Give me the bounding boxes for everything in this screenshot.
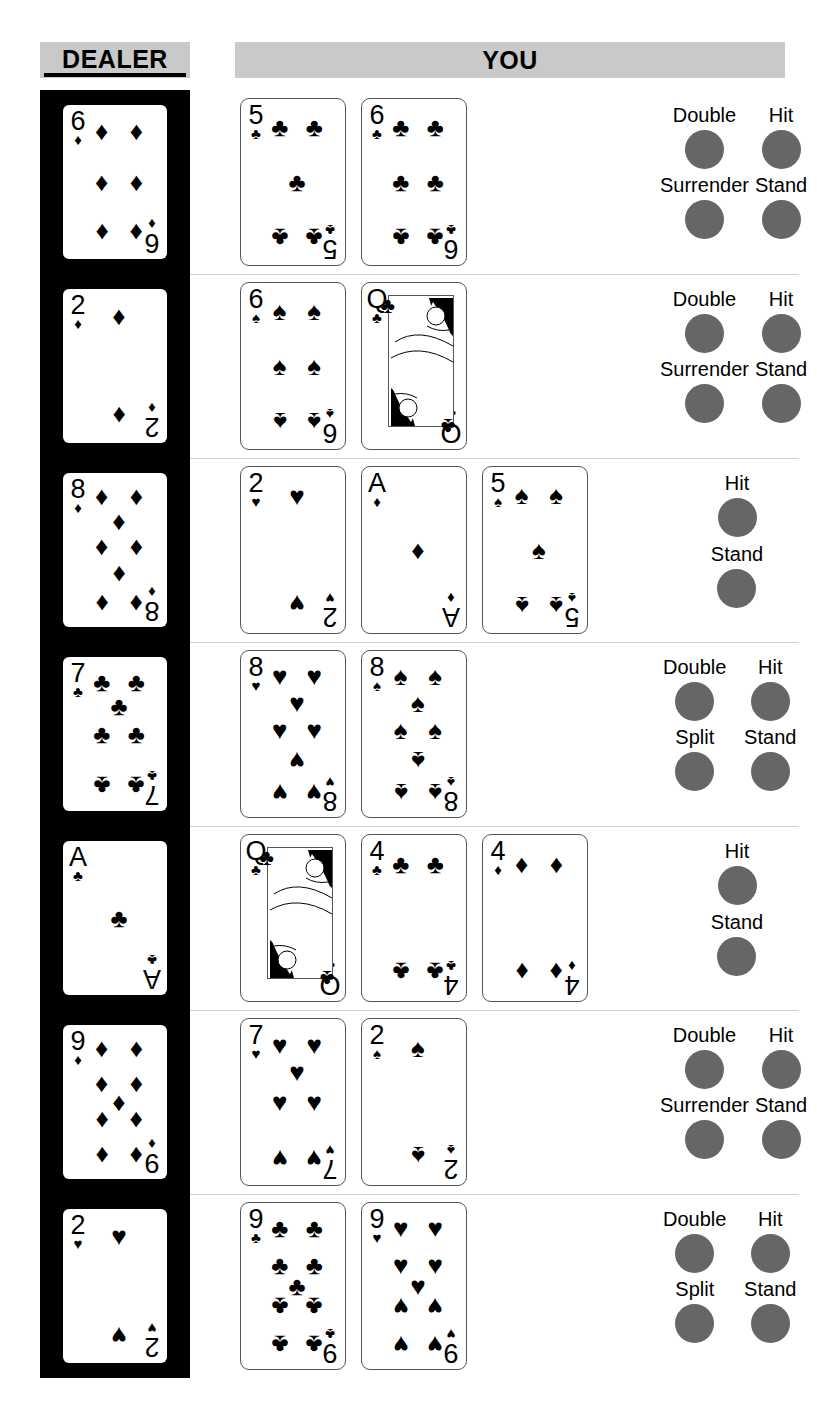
quiz-row: A♣A♣♣Q♣Q♣♣♣4♣4♣♣♣♣♣4♦4♦♦♦♦♦HitStand xyxy=(0,826,817,1010)
action-button-dot[interactable] xyxy=(751,682,790,721)
action-button-hit[interactable]: Hit xyxy=(736,1208,806,1273)
action-button-stand[interactable]: Stand xyxy=(736,1278,806,1343)
card-suit-diamond-icon: ♦ xyxy=(130,1035,143,1061)
card-suit-diamond-icon: ♦ xyxy=(130,483,143,509)
card-pips: ♣♣♣♣♣♣♣♣♣ xyxy=(261,1211,333,1361)
dealer-card: A♣A♣♣ xyxy=(63,841,167,995)
action-button-hit[interactable]: Hit xyxy=(736,656,806,721)
action-button-surrender[interactable]: Surrender xyxy=(660,174,749,239)
action-button-hit[interactable]: Hit xyxy=(755,104,807,169)
action-button-surrender[interactable]: Surrender xyxy=(660,358,749,423)
player-card: 9♣9♣♣♣♣♣♣♣♣♣♣ xyxy=(240,1202,346,1370)
action-button-group: DoubleHitSplitStand xyxy=(660,1208,805,1348)
card-suit-club-icon: ♣ xyxy=(306,1332,323,1358)
action-button-stand[interactable]: Stand xyxy=(755,174,807,239)
card-suit-heart-icon: ♥ xyxy=(393,1252,408,1278)
action-button-dot[interactable] xyxy=(718,866,757,905)
action-button-double[interactable]: Double xyxy=(660,104,749,169)
card-suit-spade-icon: ♠ xyxy=(515,593,529,619)
card-suit-diamond-icon: ♦ xyxy=(95,1143,108,1169)
action-button-dot[interactable] xyxy=(762,1120,801,1159)
action-button-double[interactable]: Double xyxy=(660,1024,749,1089)
action-button-dot[interactable] xyxy=(685,130,724,169)
card-suit-club-icon: ♣ xyxy=(427,169,444,195)
card-suit-diamond-icon: ♦ xyxy=(411,537,424,563)
dealer-card: 7♣7♣♣♣♣♣♣♣♣ xyxy=(63,657,167,811)
action-button-stand[interactable]: Stand xyxy=(736,726,806,791)
action-button-dot[interactable] xyxy=(675,1304,714,1343)
blackjack-strategy-quiz-page: DEALER YOU 6♦6♦♦♦♦♦♦♦5♣5♣♣♣♣♣♣6♣6♣♣♣♣♣♣♣… xyxy=(0,0,817,1425)
card-suit-diamond-icon: ♦ xyxy=(130,1143,143,1169)
card-suit-heart-icon: ♥ xyxy=(289,690,304,716)
action-button-dot[interactable] xyxy=(675,682,714,721)
card-suit-spade-icon: ♠ xyxy=(273,353,287,379)
action-button-dot[interactable] xyxy=(762,1050,801,1089)
action-button-label: Double xyxy=(663,1208,726,1230)
card-suit-club-icon: ♣ xyxy=(288,169,305,195)
action-button-label: Double xyxy=(673,288,736,310)
dealer-card: 2♥2♥♥♥ xyxy=(63,1209,167,1363)
quiz-row: 8♦8♦♦♦♦♦♦♦♦♦2♥2♥♥♥A♦A♦♦5♠5♠♠♠♠♠♠HitStand xyxy=(0,458,817,642)
card-suit-club-icon: ♣ xyxy=(93,721,110,747)
quiz-row: 7♣7♣♣♣♣♣♣♣♣8♥8♥♥♥♥♥♥♥♥♥8♠8♠♠♠♠♠♠♠♠♠Doubl… xyxy=(0,642,817,826)
card-suit-club-icon: ♣ xyxy=(392,851,409,877)
player-card: A♦A♦♦ xyxy=(361,466,467,634)
action-button-dot[interactable] xyxy=(685,314,724,353)
action-button-dot[interactable] xyxy=(751,1234,790,1273)
action-button-group: DoubleHitSurrenderStand xyxy=(660,104,805,244)
action-button-dot[interactable] xyxy=(675,1234,714,1273)
card-suit-club-icon: ♣ xyxy=(93,773,110,799)
card-suit-club-icon: ♣ xyxy=(381,295,395,317)
action-button-dot[interactable] xyxy=(717,569,756,608)
action-button-split[interactable]: Split xyxy=(660,1278,730,1343)
action-button-label: Hit xyxy=(725,472,749,494)
action-button-dot[interactable] xyxy=(685,384,724,423)
action-button-group: DoubleHitSurrenderStand xyxy=(660,288,805,428)
action-button-stand[interactable]: Stand xyxy=(711,911,763,976)
action-button-dot[interactable] xyxy=(718,498,757,537)
action-button-hit[interactable]: Hit xyxy=(755,288,807,353)
action-button-dot[interactable] xyxy=(762,384,801,423)
action-button-stand[interactable]: Stand xyxy=(755,358,807,423)
action-button-hit[interactable]: Hit xyxy=(718,840,757,905)
player-card: Q♣Q♣♣♣ xyxy=(361,282,467,450)
action-button-dot[interactable] xyxy=(762,314,801,353)
action-button-hit[interactable]: Hit xyxy=(755,1024,807,1089)
card-suit-diamond-icon: ♦ xyxy=(95,118,108,144)
action-button-dot[interactable] xyxy=(762,200,801,239)
action-button-stand[interactable]: Stand xyxy=(755,1094,807,1159)
action-button-hit[interactable]: Hit xyxy=(718,472,757,537)
action-button-dot[interactable] xyxy=(685,200,724,239)
action-button-double[interactable]: Double xyxy=(660,1208,730,1273)
card-suit-heart-icon: ♥ xyxy=(307,1089,322,1115)
card-suit-club-icon: ♣ xyxy=(427,851,444,877)
action-button-double[interactable]: Double xyxy=(660,656,730,721)
action-button-dot[interactable] xyxy=(751,752,790,791)
action-button-dot[interactable] xyxy=(685,1050,724,1089)
card-pips: ♦♦ xyxy=(83,297,155,435)
action-button-label: Surrender xyxy=(660,358,749,380)
card-suit-diamond-icon: ♦ xyxy=(130,591,143,617)
action-cell: HitStand xyxy=(660,458,805,642)
action-button-surrender[interactable]: Surrender xyxy=(660,1094,749,1159)
card-pips: ♦♦♦♦♦♦♦♦ xyxy=(83,481,155,619)
action-button-group: HitStand xyxy=(682,472,792,614)
action-button-dot[interactable] xyxy=(675,752,714,791)
action-cell: DoubleHitSurrenderStand xyxy=(660,1010,805,1194)
action-button-double[interactable]: Double xyxy=(660,288,749,353)
card-suit-diamond-icon: ♦ xyxy=(550,851,563,877)
action-button-dot[interactable] xyxy=(751,1304,790,1343)
action-button-stand[interactable]: Stand xyxy=(711,543,763,608)
action-button-split[interactable]: Split xyxy=(660,726,730,791)
quiz-rows: 6♦6♦♦♦♦♦♦♦5♣5♣♣♣♣♣♣6♣6♣♣♣♣♣♣♣DoubleHitSu… xyxy=(0,90,817,1378)
card-suit-club-icon: ♣ xyxy=(427,225,444,251)
card-suit-diamond-icon: ♦ xyxy=(112,508,125,534)
action-button-dot[interactable] xyxy=(717,937,756,976)
action-button-dot[interactable] xyxy=(685,1120,724,1159)
card-suit-heart-icon: ♥ xyxy=(307,780,322,806)
player-card: Q♣Q♣♣♣ xyxy=(240,834,346,1002)
dealer-card: 6♦6♦♦♦♦♦♦♦ xyxy=(63,105,167,259)
card-suit-heart-icon: ♥ xyxy=(111,1323,126,1349)
action-button-dot[interactable] xyxy=(762,130,801,169)
player-card: 2♥2♥♥♥ xyxy=(240,466,346,634)
